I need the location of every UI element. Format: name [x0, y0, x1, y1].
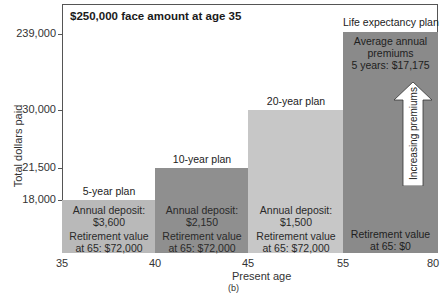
retirement-value-label: Retirement value	[62, 230, 156, 242]
average-premium-label: Average annual	[343, 35, 438, 47]
plan-label-10-year: 10-year plan	[155, 153, 249, 165]
retirement-value-label: Retirement value	[343, 228, 438, 240]
bar-1-text: Annual deposit: $3,600 Retirement value …	[62, 204, 156, 254]
annual-deposit-value: $2,150	[155, 216, 249, 228]
y-tick-21500: 21,500	[2, 161, 56, 173]
plan-label-life-expectancy: Life expectancy plan	[343, 16, 438, 28]
x-axis-label: Present age	[232, 270, 291, 282]
y-tick-239000: 239,000	[2, 27, 56, 39]
x-tick-40: 40	[140, 257, 170, 269]
x-tick-80: 80	[418, 257, 442, 269]
annual-deposit-value: $3,600	[62, 216, 156, 228]
figure-subtitle: (b)	[228, 283, 239, 293]
retirement-value-label: Retirement value	[155, 230, 249, 242]
average-premium-label-2: premiums	[343, 47, 438, 59]
bar-4-premium-text: Average annual premiums 5 years: $17,175	[343, 35, 438, 71]
y-tick-mark	[58, 168, 63, 169]
plan-label-20-year: 20-year plan	[248, 95, 344, 107]
retirement-value-value: at 65: $0	[343, 240, 438, 252]
retirement-value-value: at 65: $72,000	[155, 242, 249, 254]
x-tick-55: 55	[328, 257, 358, 269]
retirement-value-value: at 65: $72,000	[248, 242, 344, 254]
annual-deposit-value: $1,500	[248, 216, 344, 228]
annual-deposit-label: Annual deposit:	[248, 204, 344, 216]
retirement-value-value: at 65: $72,000	[62, 242, 156, 254]
x-tick-35: 35	[47, 257, 77, 269]
annual-deposit-label: Annual deposit:	[62, 204, 156, 216]
y-tick-30000: 30,000	[2, 103, 56, 115]
average-premium-value: 5 years: $17,175	[343, 59, 438, 71]
bar-4-retirement-text: Retirement value at 65: $0	[343, 228, 438, 252]
retirement-value-label: Retirement value	[248, 230, 344, 242]
annual-deposit-label: Annual deposit:	[155, 204, 249, 216]
y-tick-mark	[58, 34, 63, 35]
x-tick-45: 45	[233, 257, 263, 269]
y-tick-18000: 18,000	[2, 193, 56, 205]
plan-label-5-year: 5-year plan	[62, 185, 156, 197]
bar-2-text: Annual deposit: $2,150 Retirement value …	[155, 204, 249, 254]
y-tick-mark	[58, 110, 63, 111]
increasing-premiums-label: Increasing premiums	[408, 78, 419, 190]
bar-3-text: Annual deposit: $1,500 Retirement value …	[248, 204, 344, 254]
chart-title: $250,000 face amount at age 35	[70, 10, 241, 22]
